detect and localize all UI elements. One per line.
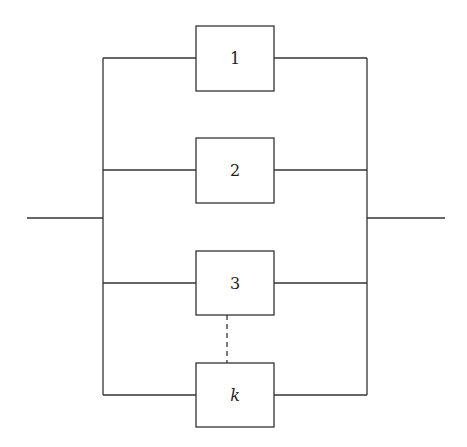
component-3: 3: [103, 251, 367, 315]
parallel-system-diagram: 1 2 3 k: [0, 0, 467, 447]
component-label: 1: [230, 49, 240, 68]
component-label: k: [230, 386, 240, 405]
component-k: k: [103, 363, 367, 427]
component-label: 2: [230, 161, 240, 180]
component-2: 2: [103, 138, 367, 203]
component-label: 3: [230, 274, 240, 293]
component-1: 1: [103, 26, 367, 91]
